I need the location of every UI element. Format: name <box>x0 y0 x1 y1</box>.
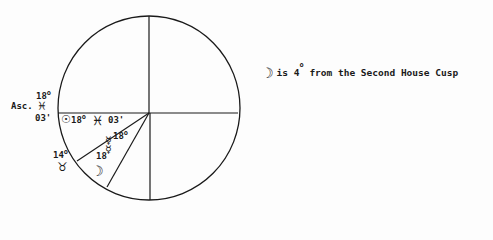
note-text-before: is 4 <box>277 67 300 78</box>
moon-icon: ☽ <box>91 164 104 178</box>
sun-degree: 18o <box>71 116 86 125</box>
asc-label: Asc. <box>11 102 33 111</box>
sun-minutes: 03' <box>108 116 124 125</box>
mercury-degree-lower: 18 <box>96 152 107 161</box>
moon-note: ☽is 4o from the Second House Cusp <box>261 63 458 79</box>
sun-icon: ☉ <box>61 114 71 125</box>
pisces-icon: ♓ <box>37 101 47 112</box>
moon-icon: ☽ <box>261 65 274 81</box>
mercury-degree-upper: 18o <box>113 132 128 141</box>
asc-minutes: 03' <box>35 114 51 123</box>
note-text-after: from the Second House Cusp <box>304 67 458 78</box>
degree-mark: o <box>299 61 303 69</box>
taurus-degree: 14o <box>53 151 68 160</box>
taurus-icon: ♉ <box>57 161 68 173</box>
pisces-icon: ♓ <box>92 114 104 127</box>
